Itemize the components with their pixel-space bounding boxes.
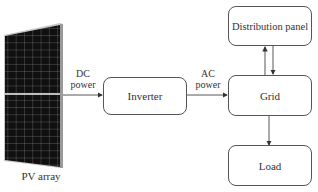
ac-label-line1: AC	[191, 68, 225, 79]
inverter-node: Inverter	[103, 77, 187, 115]
pv-panel-icon	[4, 23, 63, 168]
pv-array-label: PV array	[16, 171, 66, 182]
distribution-panel-node: Distribution panel	[228, 6, 312, 46]
dc-label-line1: DC	[66, 68, 100, 79]
dc-label-line2: power	[66, 79, 100, 90]
grid-node: Grid	[228, 75, 312, 116]
ac-label-line2: power	[191, 79, 225, 90]
ac-power-label: AC power	[191, 68, 225, 90]
dc-power-label: DC power	[66, 68, 100, 90]
load-node: Load	[228, 145, 312, 186]
